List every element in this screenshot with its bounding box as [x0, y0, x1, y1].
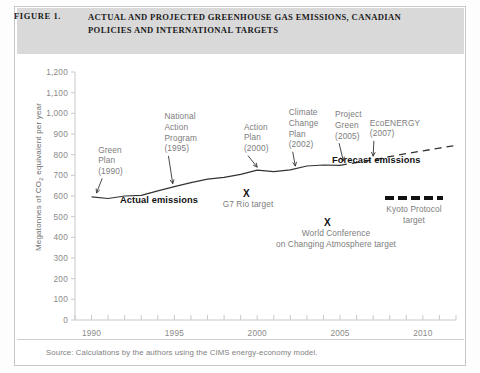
y-axis-tick-label: 900	[26, 129, 68, 139]
annotation-climate-change-plan: Climate Change Plan (2002)	[289, 107, 319, 149]
y-axis-tick-label: 200	[26, 274, 68, 284]
y-axis-tick-label: 1,200	[26, 67, 68, 77]
chart-area: Megatonnes of CO2 equivalent per year 01…	[0, 0, 480, 373]
figure-root: FIGURE 1. ACTUAL AND PROJECTED GREENHOUS…	[0, 0, 480, 373]
source-divider	[17, 339, 464, 340]
g7-rio-target-marker: X	[243, 188, 250, 199]
forecast-emissions-label: Forecast emissions	[332, 155, 421, 165]
kyoto-target-swatch	[385, 196, 443, 200]
leader-lines-group	[96, 141, 375, 193]
chart-svg	[0, 0, 480, 373]
x-axis-tick-label: 1995	[151, 328, 197, 338]
series-group	[92, 145, 456, 198]
source-note: Source: Calculations by the authors usin…	[46, 348, 318, 357]
annotation-project-green: Project Green (2005)	[335, 109, 362, 141]
g7-rio-target-label: G7 Rio target	[203, 199, 293, 210]
y-axis-tick-label: 1,000	[26, 108, 68, 118]
x-axis-tick-label: 2000	[234, 328, 280, 338]
y-axis-tick-label: 100	[26, 294, 68, 304]
kyoto-target-label: Kyoto Protocol target	[362, 204, 466, 225]
x-axis-tick-label: 2010	[400, 328, 446, 338]
y-axis-tick-label: 500	[26, 212, 68, 222]
annotation-eco-energy: EcoENERGY (2007)	[370, 118, 420, 139]
y-axis-tick-label: 600	[26, 191, 68, 201]
world-conference-target-marker: X	[324, 217, 331, 228]
y-axis-tick-label: 700	[26, 170, 68, 180]
series-actual-emissions	[92, 165, 340, 199]
annotation-green-plan: Green Plan (1990)	[98, 145, 123, 177]
actual-emissions-label: Actual emissions	[120, 195, 198, 205]
y-axis-tick-label: 1,100	[26, 88, 68, 98]
x-axis-tick-label: 1990	[69, 328, 115, 338]
world-conference-target-label: World Conference on Changing Atmosphere …	[258, 228, 414, 249]
y-axis-tick-label: 400	[26, 232, 68, 242]
x-axis-tick-label: 2005	[317, 328, 363, 338]
annotation-action-plan: Action Plan (2000)	[244, 122, 269, 154]
y-axis-tick-label: 800	[26, 150, 68, 160]
annotation-national-action-program: National Action Program (1995)	[164, 111, 197, 153]
y-axis-tick-label: 300	[26, 253, 68, 263]
y-axis-tick-label: 0	[26, 315, 68, 325]
